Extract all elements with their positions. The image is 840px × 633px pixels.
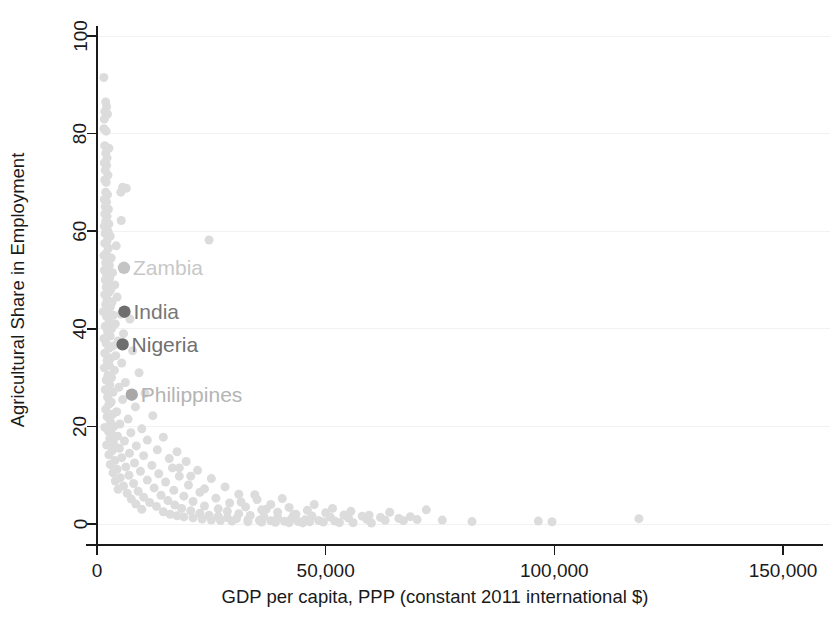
annotation-label-india: India: [133, 300, 179, 323]
scatter-point: [124, 415, 133, 424]
highlighted-point-zambia: [118, 262, 130, 274]
x-axis-title: GDP per capita, PPP (constant 2011 inter…: [222, 586, 649, 607]
scatter-point: [132, 441, 141, 450]
scatter-point: [119, 329, 128, 338]
y-tick-label: 40: [70, 318, 91, 339]
scatter-point: [211, 494, 220, 503]
scatter-point: [118, 395, 127, 404]
scatter-point: [189, 497, 198, 506]
scatter-point: [116, 188, 125, 197]
scatter-point: [131, 402, 140, 411]
annotation-label-philippines: Philippines: [141, 383, 243, 406]
scatter-point: [310, 500, 319, 509]
scatter-point: [319, 518, 328, 527]
scatter-point: [385, 508, 394, 517]
scatter-point: [179, 492, 188, 501]
scatter-point: [136, 467, 145, 476]
scatter-point: [154, 469, 163, 478]
scatter-point: [198, 515, 207, 524]
scatter-point: [346, 507, 355, 516]
scatter-point: [130, 459, 139, 468]
scatter-point: [114, 485, 123, 494]
scatter-point: [243, 517, 252, 526]
scatter-point: [129, 479, 138, 488]
scatter-point: [221, 482, 230, 491]
scatter-point: [298, 518, 307, 527]
annotation-label-zambia: Zambia: [133, 256, 203, 279]
scatter-point: [335, 518, 344, 527]
chart-figure: 020406080100 050,000100,000150,000 Zambi…: [0, 0, 840, 633]
scatter-point: [139, 451, 148, 460]
scatter-point: [143, 436, 152, 445]
scatter-point: [634, 514, 643, 523]
scatter-point: [109, 468, 118, 477]
annotation-label-nigeria: Nigeria: [132, 333, 199, 356]
scatter-point: [548, 517, 557, 526]
scatter-point: [150, 483, 159, 492]
scatter-point: [328, 504, 337, 513]
scatter-point: [285, 518, 294, 527]
scatter-point: [159, 433, 168, 442]
gridlines: [97, 36, 830, 524]
scatter-point: [143, 476, 152, 485]
y-tick-label: 60: [70, 221, 91, 242]
scatter-point: [117, 358, 126, 367]
y-tick-label: 0: [70, 519, 91, 530]
scatter-point: [367, 519, 376, 528]
scatter-point: [137, 505, 146, 514]
scatter-point: [262, 505, 271, 514]
y-tick-label: 20: [70, 416, 91, 437]
scatter-point: [173, 447, 182, 456]
scatter-point: [99, 73, 108, 82]
scatter-point: [271, 518, 280, 527]
scatter-point: [182, 457, 191, 466]
scatter-points-layer: [99, 73, 644, 528]
scatter-point: [216, 516, 225, 525]
scatter-point: [120, 437, 129, 446]
scatter-plot: 020406080100 050,000100,000150,000 Zambi…: [0, 0, 840, 633]
scatter-point: [135, 368, 144, 377]
scatter-point: [186, 472, 195, 481]
annotations-layer: ZambiaIndiaNigeriaPhilippines: [116, 256, 242, 406]
x-axis-ticks: 050,000100,000150,000: [92, 545, 818, 581]
scatter-point: [179, 512, 188, 521]
scatter-point: [112, 241, 121, 250]
scatter-point: [137, 424, 146, 433]
scatter-point: [102, 127, 111, 136]
scatter-point: [349, 518, 358, 527]
y-tick-label: 80: [70, 123, 91, 144]
highlighted-point-india: [118, 306, 130, 318]
highlighted-point-nigeria: [116, 338, 128, 350]
scatter-point: [200, 484, 209, 493]
scatter-point: [161, 478, 170, 487]
x-tick-label: 50,000: [297, 560, 355, 581]
scatter-point: [175, 472, 184, 481]
y-axis-title: Agricultural Share in Employment: [7, 153, 28, 428]
scatter-point: [406, 512, 415, 521]
x-tick-label: 150,000: [749, 560, 818, 581]
scatter-point: [227, 517, 236, 526]
y-axis-ticks: 020406080100: [70, 20, 98, 529]
scatter-point: [193, 466, 202, 475]
scatter-point: [147, 461, 156, 470]
scatter-point: [237, 498, 246, 507]
scatter-point: [422, 505, 431, 514]
scatter-point: [100, 114, 109, 123]
scatter-point: [207, 516, 216, 525]
scatter-point: [165, 454, 174, 463]
scatter-point: [534, 517, 543, 526]
scatter-point: [184, 480, 193, 489]
scatter-point: [153, 445, 162, 454]
scatter-point: [365, 511, 374, 520]
scatter-point: [291, 510, 300, 519]
scatter-point: [257, 517, 266, 526]
y-tick-label: 100: [70, 20, 91, 52]
scatter-point: [111, 477, 120, 486]
scatter-point: [189, 513, 198, 522]
scatter-point: [125, 471, 134, 480]
scatter-point: [207, 474, 216, 483]
scatter-point: [148, 411, 157, 420]
x-tick-label: 0: [92, 560, 103, 581]
x-tick-label: 100,000: [520, 560, 589, 581]
scatter-point: [126, 428, 135, 437]
